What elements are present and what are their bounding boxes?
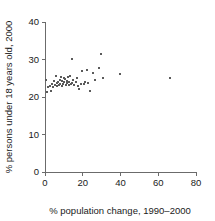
- data-point: [55, 75, 57, 77]
- data-point: [67, 76, 69, 78]
- data-point: [84, 81, 86, 83]
- x-axis-tick-label: 20: [77, 177, 88, 188]
- data-point: [51, 83, 53, 85]
- y-axis-tick-label: 20: [28, 91, 39, 102]
- data-point: [80, 83, 82, 85]
- data-point: [60, 76, 62, 78]
- data-point: [59, 79, 61, 81]
- x-axis-tick-label: 40: [115, 177, 126, 188]
- data-point: [46, 91, 48, 93]
- data-point: [75, 81, 77, 83]
- data-point: [71, 58, 73, 60]
- data-point: [78, 88, 80, 90]
- data-point: [100, 53, 102, 55]
- data-point: [69, 75, 71, 77]
- y-axis-tick-label: 10: [28, 129, 39, 140]
- data-point: [169, 77, 171, 79]
- data-point: [89, 90, 91, 92]
- data-point: [87, 82, 89, 84]
- data-point: [81, 70, 83, 72]
- data-point: [62, 83, 64, 85]
- x-axis-tick-label: 60: [153, 177, 164, 188]
- data-point: [83, 83, 85, 85]
- x-axis-tick-label: 80: [191, 177, 202, 188]
- data-point: [73, 84, 75, 86]
- data-point: [49, 85, 51, 87]
- data-point: [56, 85, 58, 87]
- data-point: [94, 79, 96, 81]
- y-axis-title: % persons under 18 years old, 2000: [3, 21, 14, 174]
- chart-canvas: 010203040020406080 % population change, …: [0, 0, 215, 221]
- data-point: [63, 81, 65, 83]
- data-point: [65, 84, 67, 86]
- x-axis-tick-label: 0: [42, 177, 47, 188]
- data-point: [66, 80, 68, 82]
- data-point: [71, 82, 73, 84]
- data-point: [119, 73, 121, 75]
- data-point: [92, 72, 94, 74]
- data-point: [47, 86, 49, 88]
- y-axis-tick-label: 0: [34, 166, 39, 177]
- data-point: [53, 80, 55, 82]
- data-point: [45, 79, 47, 81]
- data-point: [76, 77, 78, 79]
- axes-group: [45, 22, 196, 172]
- data-point: [57, 81, 59, 83]
- data-point: [52, 86, 54, 88]
- data-point: [61, 80, 63, 82]
- data-point: [68, 81, 70, 83]
- data-point: [68, 84, 70, 86]
- data-point: [102, 77, 104, 79]
- scatter-chart-figure: 010203040020406080 % population change, …: [0, 0, 215, 221]
- data-points-group: [45, 53, 171, 94]
- data-point: [98, 67, 100, 69]
- y-axis-tick-label: 40: [28, 16, 39, 27]
- data-point: [59, 83, 61, 85]
- ticks-group: [42, 22, 197, 176]
- tick-labels-group: 010203040020406080: [28, 16, 201, 188]
- data-point: [72, 79, 74, 81]
- data-point: [77, 85, 79, 87]
- y-axis-tick-label: 30: [28, 54, 39, 65]
- x-axis-title: % population change, 1990–2000: [49, 205, 191, 216]
- data-point: [86, 69, 88, 71]
- data-point: [50, 90, 52, 92]
